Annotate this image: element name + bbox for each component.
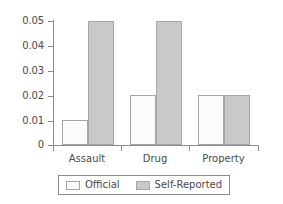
bar-self-reported-property [224,95,250,145]
legend-swatch-official-icon [66,181,80,190]
x-axis-label-drug: Drug [121,153,189,164]
legend-label-official: Official [85,180,120,190]
bar-official-drug [130,95,156,145]
bar-chart: 0.05 0.04 0.03 0.02 0.01 0 Assault Dr [0,0,283,204]
legend-swatch-self-reported-icon [136,181,150,190]
y-tick-label-1: 0.04 [22,41,44,51]
bar-official-assault [62,120,88,145]
legend-item-self-reported: Self-Reported [136,180,223,190]
x-tick-mark-3 [258,146,259,151]
y-tick-label-4: 0.01 [22,116,44,126]
y-tick-label-2: 0.03 [22,66,44,76]
y-tick-label-5: 0 [38,140,44,150]
bar-official-property [198,95,224,145]
x-tick-mark-2 [189,146,190,151]
plot-area [54,21,258,145]
x-axis-label-property: Property [189,153,258,164]
x-axis-label-assault: Assault [53,153,121,164]
y-tick-label-0: 0.05 [22,16,44,26]
x-tick-mark-0 [53,146,54,151]
bar-self-reported-drug [156,21,182,145]
y-tick-label-3: 0.02 [22,91,44,101]
legend-label-self-reported: Self-Reported [155,180,223,190]
x-axis-line [53,145,259,146]
bar-self-reported-assault [88,21,114,145]
legend-item-official: Official [66,180,120,190]
x-tick-mark-1 [121,146,122,151]
legend: Official Self-Reported [58,175,230,195]
